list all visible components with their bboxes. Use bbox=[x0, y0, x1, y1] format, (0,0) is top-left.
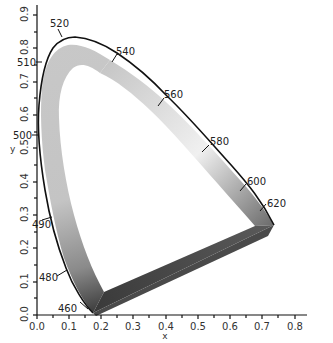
label-540: 540 bbox=[116, 46, 135, 57]
x-axis: 0.0 0.1 0.2 0.3 0.4 0.5 0.6 0.7 0.8 x bbox=[29, 315, 307, 341]
svg-text:0.2: 0.2 bbox=[19, 239, 30, 255]
label-520: 520 bbox=[50, 18, 69, 29]
label-510: 510 bbox=[17, 57, 36, 68]
svg-text:0.7: 0.7 bbox=[19, 73, 30, 89]
svg-text:0.7: 0.7 bbox=[254, 321, 270, 332]
svg-text:0.8: 0.8 bbox=[287, 321, 303, 332]
svg-text:0.0: 0.0 bbox=[19, 306, 30, 322]
label-460: 460 bbox=[58, 303, 77, 314]
svg-text:0.6: 0.6 bbox=[19, 106, 30, 122]
label-620: 620 bbox=[267, 198, 286, 209]
label-600: 600 bbox=[247, 176, 266, 187]
label-560: 560 bbox=[164, 89, 183, 100]
y-tick-labels: 0.0 0.1 0.2 0.3 0.4 0.5 0.6 0.7 0.8 0.9 bbox=[19, 6, 30, 322]
label-490: 490 bbox=[32, 219, 51, 230]
svg-text:0.1: 0.1 bbox=[19, 273, 30, 289]
label-580: 580 bbox=[210, 136, 229, 147]
svg-text:0.6: 0.6 bbox=[222, 321, 238, 332]
svg-text:0.5: 0.5 bbox=[19, 139, 30, 155]
svg-text:0.3: 0.3 bbox=[125, 321, 141, 332]
svg-text:0.0: 0.0 bbox=[29, 321, 45, 332]
svg-text:0.9: 0.9 bbox=[19, 6, 30, 22]
svg-text:0.4: 0.4 bbox=[19, 173, 30, 189]
svg-text:0.2: 0.2 bbox=[93, 321, 109, 332]
label-480: 480 bbox=[39, 272, 58, 283]
y-axis: 0.0 0.1 0.2 0.3 0.4 0.5 0.6 0.7 0.8 0.9 … bbox=[10, 5, 37, 322]
x-axis-title: x bbox=[162, 331, 168, 341]
y-axis-title: y bbox=[10, 144, 16, 154]
svg-text:0.1: 0.1 bbox=[61, 321, 77, 332]
svg-text:0.5: 0.5 bbox=[190, 321, 206, 332]
svg-text:0.8: 0.8 bbox=[19, 39, 30, 55]
svg-text:0.3: 0.3 bbox=[19, 206, 30, 222]
chromaticity-diagram: 460 480 490 500 510 520 540 560 580 600 … bbox=[0, 0, 333, 343]
